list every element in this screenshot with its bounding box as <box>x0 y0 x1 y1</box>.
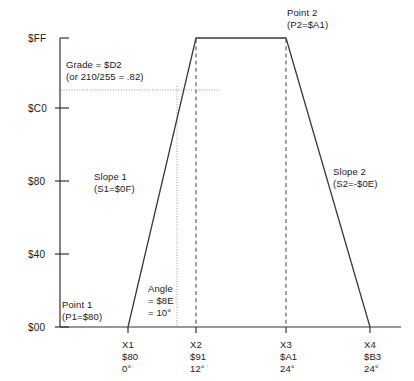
grade-annotation-line1: Grade = $D2 <box>66 59 122 70</box>
slope2-annotation-line1: Slope 2 <box>333 166 366 177</box>
point1-annotation-line2: (P1=$80) <box>62 311 102 322</box>
x1-label-hex: $80 <box>122 351 138 362</box>
angle-annotation-line2: = $8E <box>148 295 174 306</box>
y-tick-label-c0: $C0 <box>28 103 47 114</box>
y-tick-label-80: $80 <box>28 176 46 187</box>
x1-label-name: X1 <box>122 339 134 350</box>
x4-label-name: X4 <box>364 339 376 350</box>
x2-label-name: X2 <box>190 339 202 350</box>
x3-label-name: X3 <box>280 339 292 350</box>
angle-annotation-line3: = 10° <box>148 307 171 318</box>
angle-annotation-line1: Angle <box>148 283 173 294</box>
y-tick-label-00: $00 <box>28 322 46 333</box>
x3-label-hex: $A1 <box>280 351 297 362</box>
envelope-chart: $FF $C0 $80 $40 $00 Grade = $D2 (or 210/… <box>0 0 414 381</box>
x4-label-angle: 24° <box>364 363 379 374</box>
x2-label-angle: 12° <box>190 363 205 374</box>
point2-annotation-line2: (P2=$A1) <box>287 19 328 30</box>
x1-label-angle: 0° <box>122 363 131 374</box>
x3-label-angle: 24° <box>280 363 295 374</box>
y-tick-label-ff: $FF <box>28 33 46 44</box>
y-tick-label-40: $40 <box>28 249 46 260</box>
x4-label-hex: $B3 <box>364 351 381 362</box>
slope1-annotation-line1: Slope 1 <box>94 171 127 182</box>
point1-annotation-line1: Point 1 <box>62 299 92 310</box>
point2-annotation-line1: Point 2 <box>287 7 317 18</box>
x2-label-hex: $91 <box>190 351 206 362</box>
slope2-annotation-line2: (S2=-$0E) <box>333 178 377 189</box>
grade-annotation-line2: (or 210/255 = .82) <box>66 71 144 82</box>
envelope-diagram: $FF $C0 $80 $40 $00 Grade = $D2 (or 210/… <box>0 0 414 381</box>
slope1-annotation-line2: (S1=$0F) <box>94 183 135 194</box>
